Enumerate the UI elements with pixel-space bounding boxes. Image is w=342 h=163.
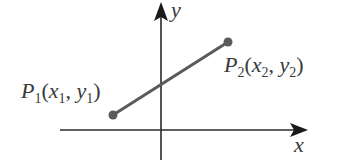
point-p1-label: P1(x1, y1) xyxy=(20,78,101,106)
point-p2-label: P2(x2, y2) xyxy=(223,52,304,80)
point-p2 xyxy=(224,38,233,47)
x-axis xyxy=(60,123,308,137)
y-axis-label: y xyxy=(169,0,181,22)
line-segment-p1-p2 xyxy=(113,42,228,115)
point-p1 xyxy=(109,111,118,120)
x-axis-label: x xyxy=(293,132,304,157)
coordinate-diagram: y x P1(x1, y1) P2(x2, y2) xyxy=(0,0,342,163)
